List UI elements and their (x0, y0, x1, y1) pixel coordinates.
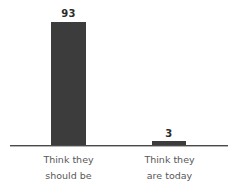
x-tick-label-2: Think they are today (124, 152, 215, 184)
x-tick-label-1: Think they should be (23, 152, 114, 184)
data-label-bar-2: 3 (152, 128, 186, 139)
x-axis-tick-labels: Think they should be Think they are toda… (0, 152, 237, 194)
x-axis-line (10, 145, 228, 146)
bar-chart: 93 3 Think they should be Think they are… (0, 0, 237, 194)
plot-area: 93 3 (0, 0, 237, 147)
bar-think-they-should-be (51, 22, 86, 145)
data-label-bar-1: 93 (51, 8, 86, 19)
